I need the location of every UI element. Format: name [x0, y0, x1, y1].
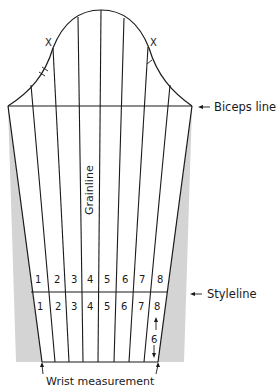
spread-arrow-up-head [154, 317, 158, 322]
lower-number-3: 3 [71, 301, 77, 312]
styleline-pointer [190, 292, 202, 296]
notch-marks [39, 60, 152, 76]
wrist-tick-left-head [40, 362, 44, 367]
notch-right [147, 60, 152, 64]
cap-mark-left: X [45, 37, 52, 48]
spread-arrow-down-head [152, 353, 156, 358]
lower-number-4: 4 [87, 301, 93, 312]
upper-number-6: 6 [122, 274, 128, 285]
wrist-tick-right-head [156, 362, 160, 367]
spread-amount-label: 6 [151, 334, 157, 345]
lower-number-6: 6 [121, 301, 127, 312]
biceps-line-pointer [198, 105, 210, 109]
upper-number-7: 7 [139, 274, 145, 285]
styleline-pointer-head [190, 292, 195, 296]
upper-number-5: 5 [104, 274, 110, 285]
upper-number-8: 8 [157, 274, 163, 285]
slash-line-6 [129, 47, 148, 362]
styleline-label: Styleline [207, 287, 257, 301]
upper-number-4: 4 [87, 274, 93, 285]
wrist-measurement-label: Wrist measurement [46, 375, 155, 388]
lower-number-1: 1 [37, 301, 43, 312]
biceps-pointer-head [198, 105, 203, 109]
grainline-label: Grainline [83, 165, 96, 215]
lower-number-8: 8 [154, 301, 160, 312]
lower-number-7: 7 [138, 301, 144, 312]
upper-number-3: 3 [71, 274, 77, 285]
upper-number-2: 2 [54, 274, 60, 285]
slash-line-2 [53, 48, 69, 362]
lower-number-5: 5 [104, 301, 110, 312]
cap-mark-right: X [150, 37, 157, 48]
sleeve-pattern-diagram: X X Grainline 1 2 3 4 5 6 7 8 1 2 3 4 5 … [0, 0, 278, 392]
wrist-measurement-ticks [40, 362, 160, 374]
lower-number-2: 2 [55, 301, 61, 312]
upper-number-1: 1 [35, 274, 41, 285]
slash-line-4 [98, 10, 101, 362]
biceps-line-label: Biceps line [214, 100, 276, 114]
